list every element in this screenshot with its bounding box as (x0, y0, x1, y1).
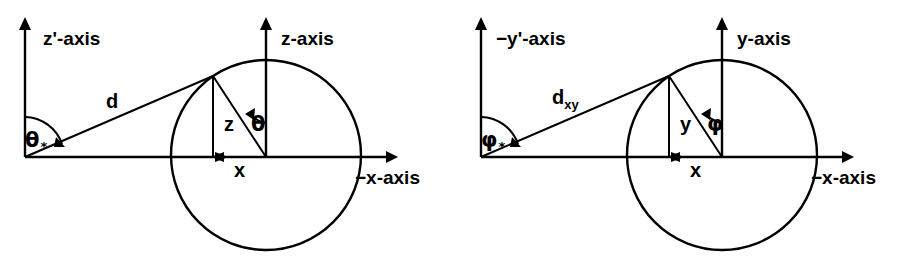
horizontal-axis-arrowhead-right (842, 151, 854, 163)
ray-length-symbol-right: d (552, 86, 564, 108)
angle-origin-subscript-left: * (40, 139, 47, 154)
prime-vertical-axis-label-left: z'-axis (43, 28, 100, 49)
prime-vertical-axis-arrowhead-right (475, 17, 487, 30)
vertical-segment-label-right: y (680, 113, 692, 135)
horizontal-segment-label-right: x (690, 159, 701, 181)
prime-vertical-axis-arrowhead-left (19, 17, 31, 30)
angle-origin-label-right: φ* (481, 128, 505, 154)
prime-vertical-axis-label-right: −y'-axis (496, 28, 566, 49)
ray-d-line-right (481, 76, 669, 157)
horizontal-segment-label-left: x (234, 159, 245, 181)
horizontal-axis-arrowhead-left (386, 151, 398, 163)
angle-origin-label-left: θ* (25, 128, 47, 154)
angle-center-label-right: φ (707, 112, 723, 136)
angle-center-label-left: θ (251, 112, 265, 136)
ray-length-label-right: dxy (552, 86, 579, 112)
vertical-axis-label-right: y-axis (737, 28, 791, 49)
figure-root: z'-axis z-axis −x-axis d z x θ* θ −y'-ax… (0, 0, 912, 263)
vertical-axis-label-left: z-axis (281, 28, 334, 49)
ray-length-label-left: d (106, 90, 118, 112)
horizontal-axis-label-left: −x-axis (355, 167, 420, 188)
vertical-axis-arrowhead-right (716, 17, 728, 30)
diagram-panel-right: −y'-axis y-axis −x-axis dxy y x φ* φ (456, 0, 912, 263)
angle-origin-symbol-right: φ (481, 128, 497, 152)
ray-length-subscript-right: xy (564, 97, 579, 112)
angle-origin-subscript-right: * (498, 139, 505, 154)
vertical-axis-arrowhead-left (260, 17, 272, 30)
angle-origin-symbol-left: θ (25, 128, 39, 152)
vertical-segment-label-left: z (224, 113, 234, 135)
diagram-panel-left: z'-axis z-axis −x-axis d z x θ* θ (0, 0, 456, 263)
ray-d-line-left (25, 76, 213, 157)
horizontal-axis-label-right: −x-axis (811, 167, 876, 188)
